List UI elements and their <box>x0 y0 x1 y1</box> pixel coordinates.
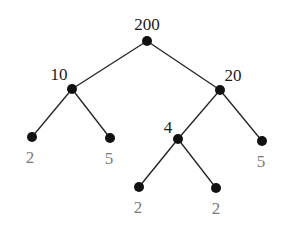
tree-edge <box>178 139 216 188</box>
tree-edges <box>32 41 262 188</box>
node-label-n5b: 5 <box>257 152 266 171</box>
tree-edge <box>32 89 72 137</box>
internal-node <box>142 36 152 46</box>
internal-node <box>173 134 183 144</box>
leaf-node <box>211 183 221 193</box>
node-label-n4: 4 <box>164 118 173 137</box>
node-label-n20: 20 <box>225 66 242 85</box>
leaf-node <box>134 182 144 192</box>
tree-edge <box>220 90 262 141</box>
node-label-n2c: 2 <box>212 199 221 218</box>
internal-node <box>215 85 225 95</box>
node-label-n10: 10 <box>51 65 68 84</box>
leaf-node <box>27 132 37 142</box>
node-label-n200: 200 <box>134 15 160 34</box>
factor-tree-diagram: 2001020254522 <box>0 0 281 227</box>
leaf-node <box>257 136 267 146</box>
internal-node <box>67 84 77 94</box>
tree-edge <box>72 41 147 89</box>
node-label-n2b: 2 <box>134 198 143 217</box>
tree-edge <box>147 41 220 90</box>
node-label-n2a: 2 <box>26 148 35 167</box>
tree-edge <box>178 90 220 139</box>
leaf-node <box>105 133 115 143</box>
tree-nodes <box>27 36 267 193</box>
tree-edge <box>72 89 110 138</box>
tree-edge <box>139 139 178 187</box>
node-label-n5a: 5 <box>105 149 114 168</box>
